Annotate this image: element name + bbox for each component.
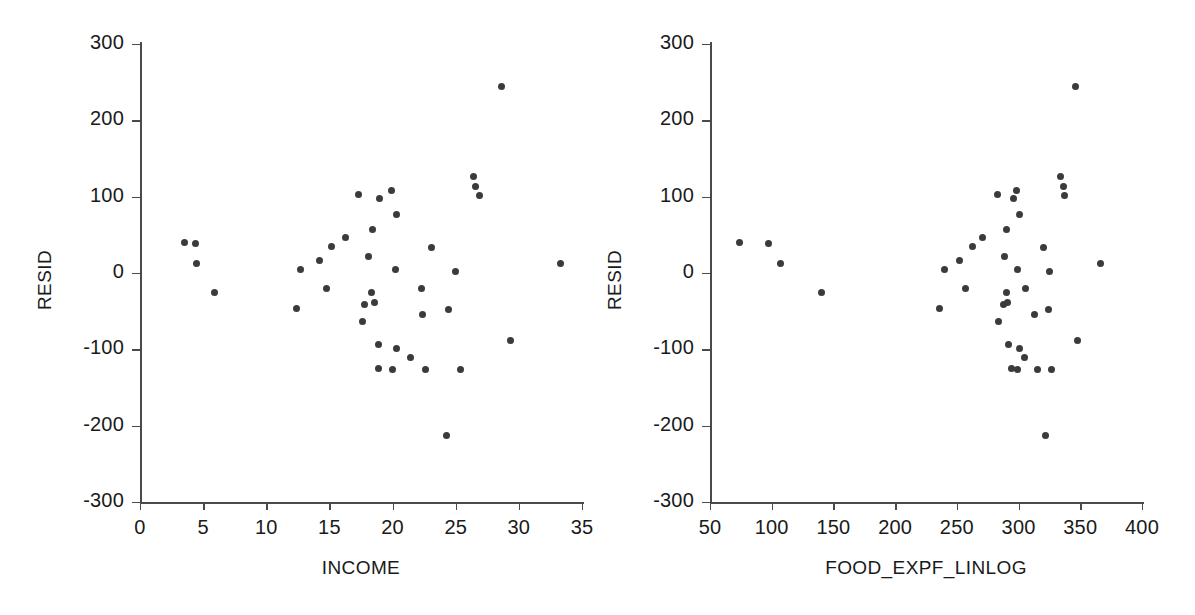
plot-area-income bbox=[140, 44, 582, 502]
data-point bbox=[1057, 173, 1064, 180]
data-point bbox=[1003, 226, 1010, 233]
data-point bbox=[557, 260, 564, 267]
x-axis-spine-left bbox=[140, 502, 584, 504]
x-tick-mark bbox=[266, 502, 267, 510]
data-point bbox=[365, 253, 372, 260]
y-tick-label: -300 bbox=[610, 489, 694, 512]
y-tick-mark bbox=[132, 349, 140, 350]
data-point bbox=[422, 366, 429, 373]
y-tick-mark bbox=[702, 197, 710, 198]
data-point bbox=[498, 83, 505, 90]
y-tick-mark bbox=[702, 502, 710, 503]
data-point bbox=[181, 239, 188, 246]
y-tick-label: -100 bbox=[40, 336, 124, 359]
y-tick-mark bbox=[132, 502, 140, 503]
data-point bbox=[328, 243, 335, 250]
data-point bbox=[1014, 266, 1021, 273]
data-point bbox=[777, 260, 784, 267]
y-tick-label: 100 bbox=[610, 184, 694, 207]
data-point bbox=[995, 318, 1002, 325]
data-point bbox=[342, 234, 349, 241]
y-tick-label: 300 bbox=[40, 31, 124, 54]
data-point bbox=[1034, 366, 1041, 373]
data-point bbox=[392, 266, 399, 273]
x-tick-mark bbox=[957, 502, 958, 510]
x-tick-mark bbox=[710, 502, 711, 510]
data-point bbox=[1048, 366, 1055, 373]
x-tick-mark bbox=[140, 502, 141, 510]
data-point bbox=[361, 301, 368, 308]
data-point bbox=[1021, 354, 1028, 361]
data-point bbox=[1013, 187, 1020, 194]
data-point bbox=[941, 266, 948, 273]
data-point bbox=[1042, 432, 1049, 439]
data-point bbox=[1001, 253, 1008, 260]
x-tick-label: 400 bbox=[1102, 516, 1182, 539]
y-tick-mark bbox=[702, 120, 710, 121]
x-axis-title-foodexpf: FOOD_EXPF_LINLOG bbox=[776, 557, 1076, 579]
y-tick-mark bbox=[132, 197, 140, 198]
data-point bbox=[393, 211, 400, 218]
data-point bbox=[1003, 289, 1010, 296]
x-tick-mark bbox=[582, 502, 583, 510]
data-point bbox=[388, 187, 395, 194]
data-points-foodexpf bbox=[710, 44, 1142, 502]
y-tick-label: 200 bbox=[40, 107, 124, 130]
data-point bbox=[969, 243, 976, 250]
plot-area-foodexpf bbox=[710, 44, 1142, 502]
data-points-income bbox=[140, 44, 582, 502]
y-tick-mark bbox=[702, 44, 710, 45]
data-point bbox=[1004, 299, 1011, 306]
x-tick-mark bbox=[1142, 502, 1143, 510]
data-point bbox=[1097, 260, 1104, 267]
y-tick-label: -300 bbox=[40, 489, 124, 512]
data-point bbox=[211, 289, 218, 296]
data-point bbox=[1005, 341, 1012, 348]
data-point bbox=[193, 260, 200, 267]
data-point bbox=[407, 354, 414, 361]
data-point bbox=[1016, 211, 1023, 218]
data-point bbox=[470, 173, 477, 180]
data-point bbox=[457, 366, 464, 373]
data-point bbox=[507, 337, 514, 344]
data-point bbox=[375, 365, 382, 372]
data-point bbox=[297, 266, 304, 273]
x-axis-spine-right bbox=[710, 502, 1144, 504]
data-point bbox=[979, 234, 986, 241]
y-tick-label: -200 bbox=[40, 413, 124, 436]
y-tick-label: -100 bbox=[610, 336, 694, 359]
data-point bbox=[375, 341, 382, 348]
data-point bbox=[452, 268, 459, 275]
y-axis-title-foodexpf: RESID bbox=[604, 250, 626, 310]
data-point bbox=[389, 366, 396, 373]
data-point bbox=[472, 183, 479, 190]
x-tick-mark bbox=[456, 502, 457, 510]
scatter-panel-foodexpf: -300-200-1000100200300 50100150200250300… bbox=[597, 0, 1195, 615]
y-tick-mark bbox=[132, 273, 140, 274]
data-point bbox=[371, 299, 378, 306]
data-point bbox=[765, 240, 772, 247]
y-tick-mark bbox=[702, 349, 710, 350]
y-tick-mark bbox=[132, 44, 140, 45]
y-tick-mark bbox=[702, 273, 710, 274]
x-tick-mark bbox=[329, 502, 330, 510]
data-point bbox=[443, 432, 450, 439]
data-point bbox=[419, 311, 426, 318]
data-point bbox=[1074, 337, 1081, 344]
data-point bbox=[316, 257, 323, 264]
data-point bbox=[1031, 311, 1038, 318]
x-tick-mark bbox=[1080, 502, 1081, 510]
data-point bbox=[936, 305, 943, 312]
data-point bbox=[736, 239, 743, 246]
data-point bbox=[818, 289, 825, 296]
data-point bbox=[1045, 306, 1052, 313]
y-tick-label: 300 bbox=[610, 31, 694, 54]
data-point bbox=[1046, 268, 1053, 275]
x-tick-mark bbox=[1019, 502, 1020, 510]
x-tick-mark bbox=[519, 502, 520, 510]
data-point bbox=[393, 345, 400, 352]
y-tick-mark bbox=[132, 426, 140, 427]
data-point bbox=[293, 305, 300, 312]
data-point bbox=[359, 318, 366, 325]
data-point bbox=[994, 191, 1001, 198]
